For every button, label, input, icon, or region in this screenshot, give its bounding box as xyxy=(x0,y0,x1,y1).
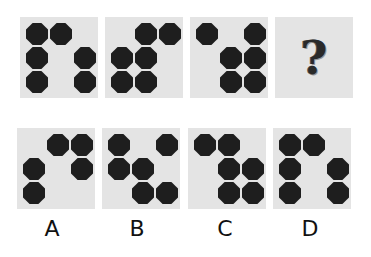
sequence-panel-3 xyxy=(190,17,268,98)
sequence-panel-1 xyxy=(20,17,98,98)
option-label-b: B xyxy=(117,216,157,241)
octagon-dot xyxy=(156,182,178,204)
question-mark-icon: ? xyxy=(275,17,353,98)
octagon-dot xyxy=(218,158,240,180)
octagon-dot xyxy=(71,134,93,156)
octagon-dot xyxy=(50,23,72,45)
octagon-dot xyxy=(196,23,218,45)
octagon-dot xyxy=(218,134,240,156)
sequence-panel-2 xyxy=(105,17,183,98)
octagon-dot xyxy=(244,47,266,69)
octagon-dot xyxy=(218,182,240,204)
option-panel-c[interactable] xyxy=(188,128,266,209)
octagon-dot xyxy=(135,71,157,93)
octagon-dot xyxy=(135,23,157,45)
octagon-dot xyxy=(194,134,216,156)
option-label-d: D xyxy=(290,216,330,241)
octagon-dot xyxy=(327,182,349,204)
octagon-dot xyxy=(242,158,264,180)
octagon-dot xyxy=(132,182,154,204)
octagon-dot xyxy=(242,182,264,204)
option-panel-d[interactable] xyxy=(273,128,351,209)
unknown-panel: ? xyxy=(275,17,353,98)
option-label-a: A xyxy=(32,216,72,241)
octagon-dot xyxy=(111,71,133,93)
octagon-dot xyxy=(135,47,157,69)
octagon-dot xyxy=(220,71,242,93)
octagon-dot xyxy=(303,134,325,156)
octagon-dot xyxy=(26,23,48,45)
octagon-dot xyxy=(26,71,48,93)
octagon-dot xyxy=(23,158,45,180)
octagon-dot xyxy=(26,47,48,69)
option-panel-b[interactable] xyxy=(102,128,180,209)
option-label-c: C xyxy=(205,216,245,241)
octagon-dot xyxy=(279,158,301,180)
octagon-dot xyxy=(47,134,69,156)
octagon-dot xyxy=(74,47,96,69)
octagon-dot xyxy=(132,158,154,180)
octagon-dot xyxy=(327,158,349,180)
octagon-dot xyxy=(244,23,266,45)
option-panel-a[interactable] xyxy=(17,128,95,209)
octagon-dot xyxy=(220,47,242,69)
octagon-dot xyxy=(23,182,45,204)
octagon-dot xyxy=(111,47,133,69)
octagon-dot xyxy=(71,158,93,180)
octagon-dot xyxy=(108,134,130,156)
octagon-dot xyxy=(156,134,178,156)
octagon-dot xyxy=(279,134,301,156)
octagon-dot xyxy=(244,71,266,93)
octagon-dot xyxy=(159,23,181,45)
octagon-dot xyxy=(108,158,130,180)
octagon-dot xyxy=(74,71,96,93)
octagon-dot xyxy=(279,182,301,204)
